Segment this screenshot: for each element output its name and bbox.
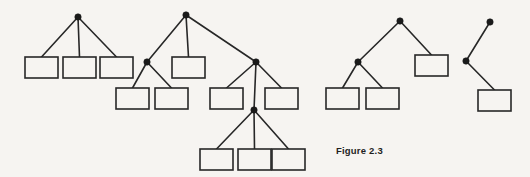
tree-edge — [254, 62, 256, 110]
tree-edge — [147, 15, 186, 62]
tree-node-dot — [463, 58, 469, 64]
tree-3 — [326, 18, 448, 109]
tree-1-edges — [42, 17, 117, 57]
tree-edge — [186, 15, 256, 62]
tree-edge — [400, 21, 432, 55]
tree-node-dot — [75, 14, 81, 20]
tree-node-dot — [183, 12, 189, 18]
leaf-box — [116, 88, 149, 109]
figure-container: Figure 2.3 — [0, 0, 530, 177]
tree-edge — [254, 110, 255, 149]
tree-4 — [463, 19, 511, 111]
figure-caption: Figure 2.3 — [336, 145, 383, 156]
tree-1-leaves — [25, 57, 133, 78]
leaf-box — [326, 88, 359, 109]
leaf-box — [238, 149, 271, 170]
tree-3-leaves — [326, 55, 448, 109]
tree-node-dot — [144, 59, 150, 65]
leaf-box — [155, 88, 188, 109]
tree-edge — [217, 110, 255, 149]
tree-2-edges — [133, 15, 289, 149]
tree-4-leaves — [478, 90, 511, 111]
tree-2 — [116, 12, 305, 170]
leaf-box — [478, 90, 511, 111]
tree-edge — [466, 22, 490, 61]
tree-edge — [254, 110, 289, 149]
tree-node-dot — [253, 59, 259, 65]
tree-node-dot — [251, 107, 257, 113]
tree-edge — [227, 62, 257, 88]
tree-edge — [133, 62, 148, 88]
leaf-box — [200, 149, 233, 170]
tree-edge — [78, 17, 80, 57]
tree-node-dot — [397, 18, 403, 24]
tree-node-dot — [487, 19, 493, 25]
tree-4-edges — [466, 22, 495, 90]
tree-edge — [78, 17, 117, 57]
leaf-box — [265, 88, 298, 109]
tree-edge — [466, 61, 495, 90]
leaf-box — [63, 57, 96, 78]
leaf-box — [210, 88, 243, 109]
tree-edge — [358, 62, 383, 88]
tree-edge — [343, 62, 359, 88]
tree-edge — [256, 62, 282, 88]
tree-edge — [358, 21, 400, 62]
leaf-box — [272, 149, 305, 170]
tree-2-leaves — [116, 57, 305, 170]
leaf-box — [415, 55, 448, 76]
tree-node-dot — [355, 59, 361, 65]
leaf-box — [172, 57, 205, 78]
tree-1 — [25, 14, 133, 78]
tree-diagram-canvas — [0, 0, 530, 177]
leaf-box — [366, 88, 399, 109]
tree-edge — [147, 62, 172, 88]
tree-edge — [42, 17, 79, 57]
tree-1-nodes — [75, 14, 81, 20]
leaf-box — [25, 57, 58, 78]
tree-edge — [186, 15, 189, 57]
leaf-box — [100, 57, 133, 78]
